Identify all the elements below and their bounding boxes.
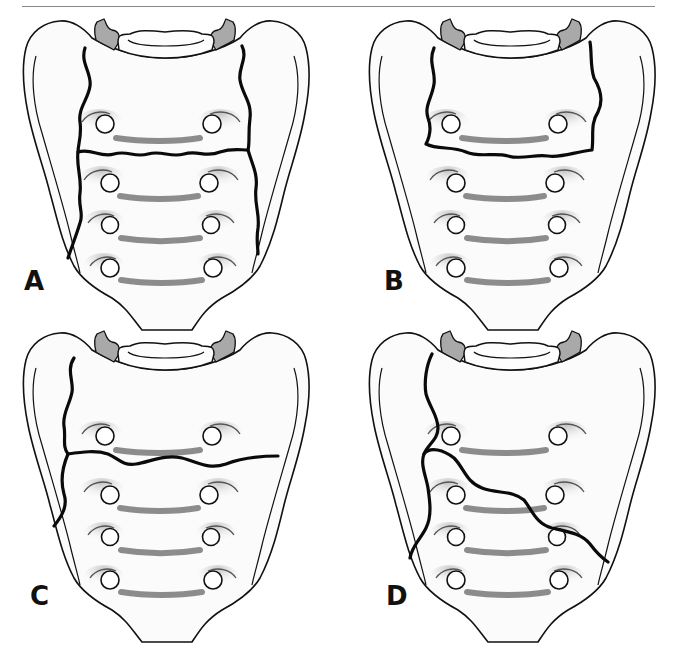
panel-c: C [23,331,309,642]
panel-label-a: A [24,266,44,296]
panel-label-c: C [30,581,49,611]
sacrum-figure: A B C D [0,0,674,659]
sacrum-illustration [369,19,655,330]
panel-d: D [369,331,655,642]
sacrum-illustration [23,19,309,330]
panel-label-d: D [386,581,408,611]
sacrum-illustration [369,331,655,642]
panel-label-b: B [384,266,404,296]
panel-a: A [23,19,309,330]
panel-b: B [369,19,655,330]
sacrum-illustration [23,331,309,642]
